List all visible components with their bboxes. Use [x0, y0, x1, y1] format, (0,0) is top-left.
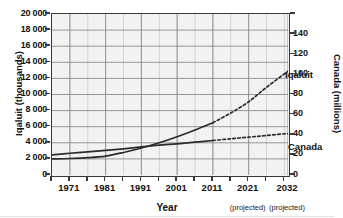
y-right-tick-mark: [290, 32, 295, 34]
y-right-tick-mark: [290, 12, 295, 14]
x-tick-mark: [86, 176, 88, 181]
y-left-tick-mark: [45, 93, 50, 95]
y-left-tick-label: 18 000: [3, 25, 47, 34]
y-left-tick-mark: [45, 173, 50, 175]
x-tick-mark: [283, 176, 285, 181]
x-tick-mark: [140, 176, 142, 181]
y-left-tick-label: 2 000: [3, 153, 47, 162]
chart-canvas: [52, 14, 288, 175]
x-tick-mark: [158, 176, 160, 181]
x-tick-label: 2021: [237, 182, 258, 193]
y-right-tick-mark: [290, 113, 295, 115]
y-left-tick-mark: [45, 141, 50, 143]
x-tick-mark: [104, 176, 106, 181]
y-left-tick-label: 8 000: [3, 105, 47, 114]
y-axis-right-title: Canada (millions): [332, 44, 343, 144]
y-left-tick-label: 6 000: [3, 121, 47, 130]
y-right-tick-mark: [290, 173, 295, 175]
y-right-tick-mark: [290, 53, 295, 55]
x-tick-mark: [122, 176, 124, 181]
bottom-rule: [0, 216, 334, 217]
x-tick-label: 1971: [58, 182, 79, 193]
x-tick-label: 2032: [276, 182, 297, 193]
y-axis-left: 02 0004 0006 0008 00010 00012 00014 0001…: [0, 0, 47, 218]
y-right-tick-mark: [290, 153, 295, 155]
y-right-tick-mark: [290, 93, 295, 95]
x-tick-mark: [193, 176, 195, 181]
x-tick-label: 1981: [94, 182, 115, 193]
y-right-tick-label: 140: [293, 29, 308, 38]
x-tick-mark: [175, 176, 177, 181]
y-right-tick-mark: [290, 133, 295, 135]
y-left-tick-mark: [45, 77, 50, 79]
y-left-tick-label: 0: [3, 170, 47, 179]
y-left-tick-mark: [45, 12, 50, 14]
plot-area: Iqaluit Canada: [51, 13, 290, 177]
x-axis-title: Year: [0, 202, 334, 213]
y-left-tick-label: 12 000: [3, 73, 47, 82]
y-left-tick-mark: [45, 44, 50, 46]
y-left-tick-mark: [45, 28, 50, 30]
y-right-tick-label: 120: [293, 49, 308, 58]
y-left-tick-label: 16 000: [3, 41, 47, 50]
y-right-tick-label: 100: [293, 69, 308, 78]
x-tick-label: 2011: [202, 182, 223, 193]
x-tick-label: 2001: [166, 182, 187, 193]
x-tick-label: 1991: [130, 182, 151, 193]
x-tick-mark: [229, 176, 231, 181]
y-left-tick-mark: [45, 61, 50, 63]
y-right-tick-mark: [290, 73, 295, 75]
x-tick-mark: [211, 176, 213, 181]
x-tick-mark: [265, 176, 267, 181]
x-tick-mark: [247, 176, 249, 181]
y-left-tick-label: 14 000: [3, 57, 47, 66]
y-left-tick-mark: [45, 109, 50, 111]
y-left-tick-label: 10 000: [3, 89, 47, 98]
y-axis-left-title: Iqaluit (thousands): [13, 44, 24, 144]
x-tick-mark: [68, 176, 70, 181]
y-left-tick-mark: [45, 157, 50, 159]
y-left-tick-label: 20 000: [3, 9, 47, 18]
x-tick-mark: [50, 176, 52, 181]
y-left-tick-label: 4 000: [3, 137, 47, 146]
y-left-tick-mark: [45, 125, 50, 127]
